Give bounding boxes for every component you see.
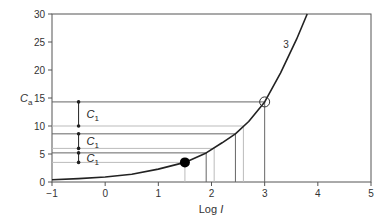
x-tick-label: 5	[368, 188, 374, 199]
y-tick-label: 20	[34, 65, 46, 76]
x-tick-label: −1	[46, 188, 58, 199]
plot-frame	[52, 14, 371, 182]
interval-endpoint	[77, 147, 81, 151]
x-axis-label: Log I	[199, 203, 223, 215]
interval-endpoint	[77, 132, 81, 136]
interval-endpoint	[77, 100, 81, 104]
y-tick-label: 15	[34, 93, 46, 104]
interval-endpoint	[77, 124, 81, 128]
x-tick-label: 3	[262, 188, 268, 199]
interval-label: C1	[87, 108, 100, 123]
interval-label: C1	[87, 135, 100, 150]
interval-endpoint	[77, 151, 81, 155]
y-tick-label: 10	[34, 121, 46, 132]
y-tick-label: 0	[39, 177, 45, 188]
y-axis-label: Ca	[20, 92, 33, 107]
x-tick-label: 1	[156, 188, 162, 199]
y-tick-label: 25	[34, 37, 46, 48]
y-tick-label: 30	[34, 9, 46, 20]
x-tick-label: 0	[102, 188, 108, 199]
x-tick-label: 4	[315, 188, 321, 199]
chart: −1012345051015202530C1C1C13 Log I Ca	[0, 0, 390, 223]
interval-label: C1	[87, 152, 100, 167]
interval-endpoint	[77, 161, 81, 165]
filled-marker	[180, 157, 190, 167]
y-tick-label: 5	[39, 149, 45, 160]
plot-area: −1012345051015202530C1C1C13	[34, 9, 374, 199]
curve-label: 3	[283, 39, 289, 50]
x-tick-label: 2	[209, 188, 215, 199]
